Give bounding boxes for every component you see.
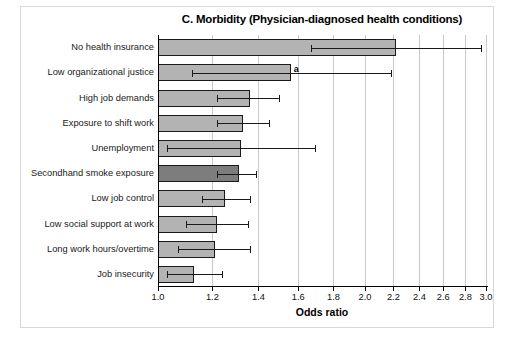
error-bar-cap-high <box>315 145 316 152</box>
category-label: Low social support at work <box>22 219 154 229</box>
error-bar-cap-high <box>269 120 270 127</box>
error-bar-cap-high <box>248 221 249 228</box>
bar-row <box>158 140 486 157</box>
error-bar-line <box>217 123 269 124</box>
error-bar-cap-low <box>202 196 203 203</box>
error-bar-cap-high <box>250 196 251 203</box>
plot-area: a <box>158 35 486 287</box>
x-tick-mark <box>443 287 444 291</box>
x-tick-label: 2.0 <box>358 292 371 302</box>
error-bar-cap-low <box>217 120 218 127</box>
error-bar-cap-low <box>217 95 218 102</box>
x-tick-label: 1.6 <box>292 292 305 302</box>
error-bar-line <box>217 98 279 99</box>
category-label: High job demands <box>22 93 154 103</box>
x-tick-mark <box>158 287 159 291</box>
error-bar-cap-low <box>186 221 187 228</box>
error-bar-cap-low <box>167 271 168 278</box>
gridline <box>486 35 487 287</box>
x-tick-label: 1.0 <box>152 292 165 302</box>
significance-marker: a <box>294 65 299 74</box>
x-tick-label: 3.0 <box>480 292 493 302</box>
bar-row <box>158 165 486 182</box>
error-bar-line <box>217 174 256 175</box>
error-bar-line <box>167 274 222 275</box>
error-bar-line <box>186 224 247 225</box>
error-bar-cap-low <box>178 246 179 253</box>
error-bar-cap-high <box>256 171 257 178</box>
category-label: Unemployment <box>22 143 154 153</box>
category-label: Secondhand smoke exposure <box>22 168 154 178</box>
error-bar-cap-high <box>222 271 223 278</box>
error-bar-cap-low <box>167 145 168 152</box>
bar-row <box>158 266 486 283</box>
bar-row <box>158 216 486 233</box>
category-label: Low job control <box>22 193 154 203</box>
x-axis-ticks: 1.01.21.41.61.82.02.22.42.62.83.0 <box>158 287 488 303</box>
x-tick-label: 2.4 <box>413 292 426 302</box>
x-tick-mark <box>298 287 299 291</box>
x-tick-label: 1.4 <box>252 292 265 302</box>
x-tick-mark <box>212 287 213 291</box>
bar-row <box>158 39 486 56</box>
error-bar-cap-high <box>481 45 482 52</box>
bar-row <box>158 115 486 132</box>
error-bar-cap-high <box>391 70 392 77</box>
bar-row <box>158 241 486 258</box>
category-label: Low organizational justice <box>22 67 154 77</box>
bar-row <box>158 64 486 81</box>
x-tick-label: 1.2 <box>206 292 219 302</box>
x-tick-mark <box>465 287 466 291</box>
error-bar-cap-low <box>192 70 193 77</box>
bar-row <box>158 190 486 207</box>
y-axis-line <box>158 35 159 287</box>
x-tick-mark <box>486 287 487 291</box>
x-tick-label: 2.8 <box>459 292 472 302</box>
x-tick-label: 2.2 <box>387 292 400 302</box>
error-bar-cap-low <box>217 171 218 178</box>
bar-row <box>158 90 486 107</box>
chart-title: C. Morbidity (Physician-diagnosed health… <box>157 13 487 25</box>
error-bar-cap-high <box>279 95 280 102</box>
x-axis-title: Odds ratio <box>158 306 486 318</box>
category-label: No health insurance <box>22 42 154 52</box>
x-tick-label: 1.8 <box>327 292 340 302</box>
x-tick-mark <box>419 287 420 291</box>
figure-panel: C. Morbidity (Physician-diagnosed health… <box>20 6 494 328</box>
category-label: Job insecurity <box>22 269 154 279</box>
error-bar-cap-low <box>311 45 312 52</box>
category-label: Exposure to shift work <box>22 118 154 128</box>
category-axis-labels: No health insuranceLow organizational ju… <box>21 35 154 287</box>
error-bar-line <box>167 148 315 149</box>
x-tick-mark <box>393 287 394 291</box>
category-label: Long work hours/overtime <box>22 244 154 254</box>
x-tick-label: 2.6 <box>437 292 450 302</box>
x-tick-mark <box>258 287 259 291</box>
x-tick-mark <box>365 287 366 291</box>
error-bar-line <box>311 48 481 49</box>
error-bar-line <box>202 199 249 200</box>
error-bar-line <box>178 249 250 250</box>
error-bar-line <box>192 73 391 74</box>
x-tick-mark <box>333 287 334 291</box>
error-bar-cap-high <box>250 246 251 253</box>
